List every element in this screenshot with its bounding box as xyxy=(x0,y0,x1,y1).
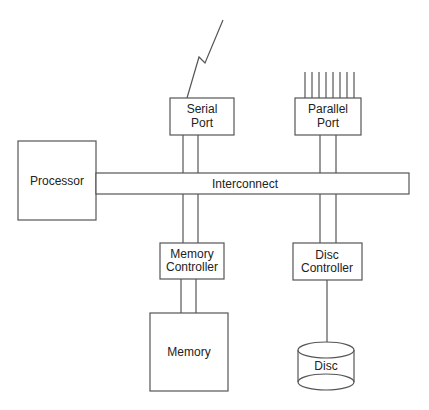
memory-label: Memory xyxy=(167,345,210,359)
processor-node: Processor xyxy=(18,141,96,220)
disc-top-ellipse xyxy=(298,342,354,358)
processor-label: Processor xyxy=(30,174,84,188)
memory-controller-node: Memory Controller xyxy=(160,243,224,279)
parallel-port-connector xyxy=(320,135,336,174)
disc-node: Disc xyxy=(298,342,354,390)
interconnect-label: Interconnect xyxy=(212,177,279,191)
disc-controller-label-line2: Controller xyxy=(301,261,353,275)
memory-connector xyxy=(181,279,196,313)
architecture-diagram: Serial Port Parallel Port Processor Inte… xyxy=(0,0,429,410)
disc-controller-connector xyxy=(320,194,336,243)
parallel-port-node: Parallel Port xyxy=(295,98,361,135)
parallel-link-lines xyxy=(305,72,354,98)
parallel-port-label-line1: Parallel xyxy=(308,102,348,116)
memory-controller-label-line1: Memory xyxy=(170,247,213,261)
disc-controller-node: Disc Controller xyxy=(293,243,362,280)
interconnect-bus: Interconnect xyxy=(96,173,409,194)
serial-port-label-line2: Port xyxy=(191,116,214,130)
serial-port-connector xyxy=(183,135,198,174)
disc-controller-label-line1: Disc xyxy=(315,248,338,262)
serial-port-node: Serial Port xyxy=(170,98,234,135)
disc-label: Disc xyxy=(314,359,337,373)
serial-port-label-line1: Serial xyxy=(187,102,218,116)
memory-controller-label-line2: Controller xyxy=(166,260,218,274)
memory-node: Memory xyxy=(150,313,228,391)
parallel-port-label-line2: Port xyxy=(317,116,340,130)
memory-controller-connector xyxy=(183,194,198,243)
serial-link-zigzag xyxy=(187,20,223,98)
